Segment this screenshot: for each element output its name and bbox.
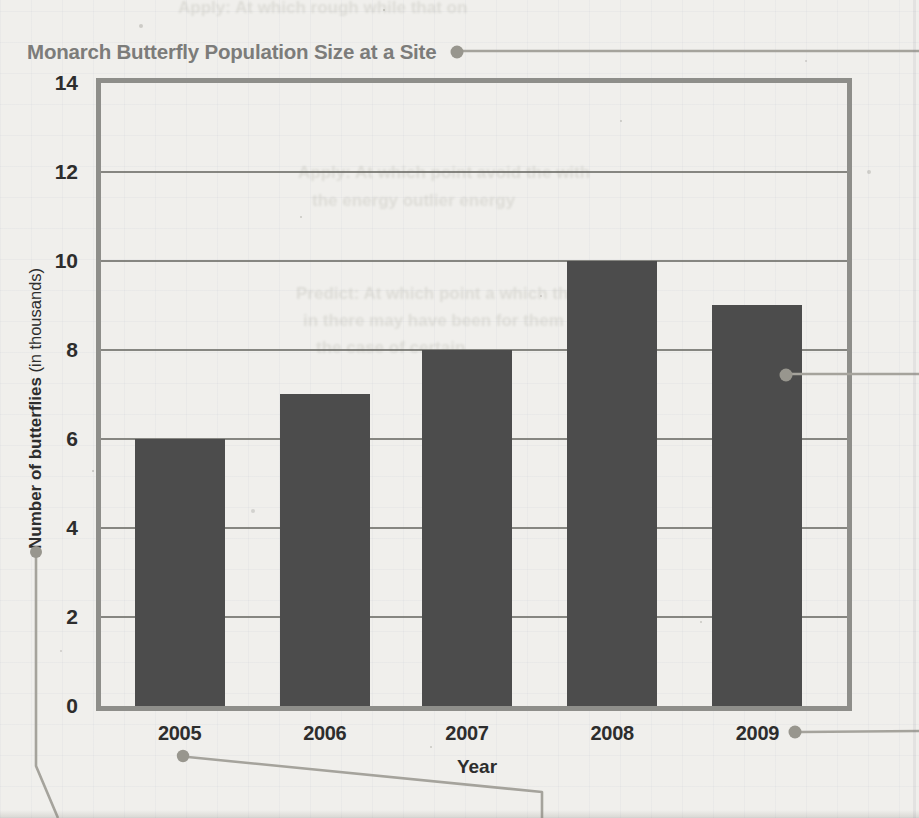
x-tick-label-2008: 2008 [562, 722, 662, 745]
scanned-page: Apply: At which rough while that onApply… [0, 0, 919, 818]
y-axis-title-main: Number of butterflies [26, 377, 45, 549]
gridline-12 [101, 171, 847, 173]
title-callout-dot [451, 46, 464, 59]
chart-title: Monarch Butterfly Population Size at a S… [27, 40, 436, 64]
gridline-10 [101, 260, 847, 262]
x-tick-2009-callout-line [801, 731, 919, 732]
y-tick-label-12: 12 [28, 160, 78, 184]
x-tick-2005-callout-dot [177, 750, 189, 762]
ghost-text-line: Apply: At which rough while that on [178, 0, 467, 18]
bar-2007 [422, 350, 512, 706]
bar-2009 [712, 305, 802, 706]
y-tick-label-14: 14 [28, 71, 78, 95]
y-axis-title: Number of butterflies (in thousands) [26, 268, 46, 549]
y-axis-title-unit: (in thousands) [26, 268, 44, 377]
y-tick-label-2: 2 [28, 605, 78, 629]
y-axis-label-callout-line [36, 556, 58, 818]
right-page-edge-line [913, 0, 916, 818]
title-callout [451, 46, 919, 59]
x-tick-label-2009: 2009 [707, 722, 807, 745]
bar-2005 [135, 439, 225, 706]
x-tick-label-2006: 2006 [275, 722, 375, 745]
bottom-scan-shadow [0, 810, 919, 818]
x-tick-label-2005: 2005 [130, 722, 230, 745]
x-axis-title: Year [427, 756, 527, 778]
y-axis-label-callout [30, 546, 58, 818]
bar-2006 [280, 394, 370, 706]
x-tick-label-2007: 2007 [417, 722, 517, 745]
y-tick-label-0: 0 [28, 694, 78, 718]
bar-2008 [567, 261, 657, 706]
scan-speckles [0, 0, 2, 2]
x-tick-2009-callout [789, 726, 919, 739]
